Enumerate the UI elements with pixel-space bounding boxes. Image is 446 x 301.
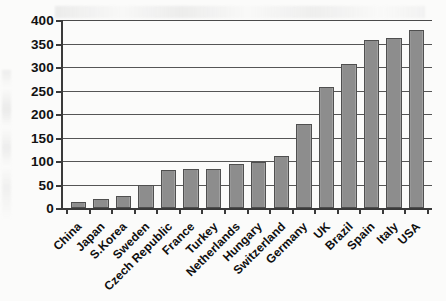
x-axis-tick-mark [112, 208, 135, 214]
x-axis-label-slot: Germany [291, 216, 314, 298]
y-axis-tick-label: 50 [39, 177, 54, 192]
bar-turkey [206, 169, 221, 208]
y-axis-tick-label: 200 [31, 107, 54, 122]
bar-japan [93, 199, 108, 208]
bar-slot [270, 20, 293, 208]
bar-slot [67, 20, 90, 208]
y-axis-tick-mark [56, 20, 63, 22]
x-axis-tick-mark [248, 208, 271, 214]
bar-slot [383, 20, 406, 208]
bar-slot [315, 20, 338, 208]
bar-slot [225, 20, 248, 208]
scan-edge-noise-artifact [2, 70, 11, 220]
bar-germany [296, 124, 311, 208]
y-axis-tick-mark [56, 91, 63, 93]
x-axis-ticks [63, 208, 432, 214]
x-axis-label-slot: Spain [358, 216, 381, 298]
x-axis-label-slot: Czech Republic [155, 216, 178, 298]
y-axis-tick-mark [56, 44, 63, 46]
bars-group [63, 20, 432, 208]
bar-slot [180, 20, 203, 208]
x-axis-tick-mark [293, 208, 316, 214]
bar-china [71, 202, 86, 208]
y-axis-tick-label: 150 [31, 130, 54, 145]
bar-usa [409, 30, 424, 208]
y-axis-tick-label: 300 [31, 60, 54, 75]
bar-slot [248, 20, 271, 208]
x-axis-label-slot: UK [313, 216, 336, 298]
x-axis-tick-mark [135, 208, 158, 214]
bar-s-korea [116, 196, 131, 208]
y-axis-tick-mark [56, 67, 63, 69]
x-axis-tick-mark [157, 208, 180, 214]
y-axis-tick-mark [56, 161, 63, 163]
bar-sweden [138, 185, 153, 209]
scan-bleed-through-artifact [55, 6, 425, 18]
bar-italy [386, 38, 401, 208]
y-axis-tick-label: 100 [31, 154, 54, 169]
bar-netherlands [229, 164, 244, 208]
bar-slot [338, 20, 361, 208]
bar-hungary [251, 162, 266, 208]
y-axis-tick-label: 0 [46, 201, 54, 216]
x-axis-category-labels: ChinaJapanS.KoreaSwedenCzech RepublicFra… [61, 216, 430, 298]
y-axis-tick-mark [56, 114, 63, 116]
x-axis-tick-mark [225, 208, 248, 214]
x-axis-tick-mark [405, 208, 428, 214]
x-axis-tick-mark [315, 208, 338, 214]
bar-uk [319, 87, 334, 208]
bar-slot [112, 20, 135, 208]
bar-slot [360, 20, 383, 208]
y-axis-tick-mark [56, 208, 63, 210]
bar-chart-figure: 050100150200250300350400 ChinaJapanS.Kor… [0, 0, 446, 301]
x-axis-tick-mark [360, 208, 383, 214]
plot-area: 050100150200250300350400 [61, 20, 432, 210]
x-axis-tick-mark [338, 208, 361, 214]
bar-brazil [341, 64, 356, 208]
x-axis-tick-mark [383, 208, 406, 214]
x-axis-label-slot: China [65, 216, 88, 298]
y-axis-tick-label: 350 [31, 36, 54, 51]
y-axis-tick-label: 400 [31, 13, 54, 28]
x-axis-label-slot: Brazil [336, 216, 359, 298]
x-axis-tick-mark [90, 208, 113, 214]
x-axis-label-slot: USA [403, 216, 426, 298]
bar-slot [405, 20, 428, 208]
bar-slot [157, 20, 180, 208]
x-axis-tick-mark [202, 208, 225, 214]
x-axis-label-slot: Italy [381, 216, 404, 298]
bar-czech-republic [161, 170, 176, 208]
bar-spain [364, 40, 379, 208]
bar-slot [202, 20, 225, 208]
y-axis-tick-label: 250 [31, 83, 54, 98]
x-axis-tick-mark [67, 208, 90, 214]
bar-switzerland [274, 156, 289, 208]
x-axis-tick-mark [270, 208, 293, 214]
x-axis-tick-mark [180, 208, 203, 214]
y-axis-tick-mark [56, 138, 63, 140]
y-axis-tick-mark [56, 185, 63, 187]
bar-france [183, 169, 198, 208]
bar-slot [135, 20, 158, 208]
bar-slot [90, 20, 113, 208]
bar-slot [293, 20, 316, 208]
